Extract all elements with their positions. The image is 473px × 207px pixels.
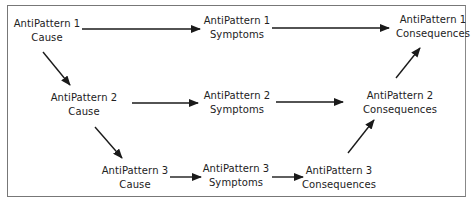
node-label: Symptoms xyxy=(182,28,292,42)
arrow-q2-q1 xyxy=(396,48,420,78)
node-label: Cause xyxy=(80,178,190,192)
node-label: Cause xyxy=(29,105,139,119)
node-antipattern2-consequences: AntiPattern 2 Consequences xyxy=(345,89,455,117)
arrow-c1-c2 xyxy=(43,52,70,85)
node-title: AntiPattern 3 xyxy=(284,164,394,178)
node-title: AntiPattern 1 xyxy=(378,13,473,27)
node-title: AntiPattern 3 xyxy=(80,164,190,178)
node-antipattern1-cause: AntiPattern 1 Cause xyxy=(0,17,102,45)
node-antipattern3-symptoms: AntiPattern 3 Symptoms xyxy=(181,162,291,190)
node-title: AntiPattern 3 xyxy=(181,162,291,176)
arrow-c2-c3 xyxy=(95,127,122,158)
node-title: AntiPattern 1 xyxy=(182,14,292,28)
node-antipattern2-symptoms: AntiPattern 2 Symptoms xyxy=(182,89,292,117)
node-title: AntiPattern 2 xyxy=(182,89,292,103)
node-title: AntiPattern 2 xyxy=(29,91,139,105)
node-label: Consequences xyxy=(345,103,455,117)
node-label: Consequences xyxy=(378,27,473,41)
node-antipattern1-symptoms: AntiPattern 1 Symptoms xyxy=(182,14,292,42)
node-antipattern1-consequences: AntiPattern 1 Consequences xyxy=(378,13,473,41)
node-antipattern3-consequences: AntiPattern 3 Consequences xyxy=(284,164,394,192)
node-title: AntiPattern 1 xyxy=(0,17,102,31)
node-label: Consequences xyxy=(284,178,394,192)
node-label: Symptoms xyxy=(182,103,292,117)
node-label: Symptoms xyxy=(181,176,291,190)
node-label: Cause xyxy=(0,31,102,45)
node-antipattern3-cause: AntiPattern 3 Cause xyxy=(80,164,190,192)
node-antipattern2-cause: AntiPattern 2 Cause xyxy=(29,91,139,119)
node-title: AntiPattern 2 xyxy=(345,89,455,103)
arrow-q3-q2 xyxy=(348,120,374,153)
